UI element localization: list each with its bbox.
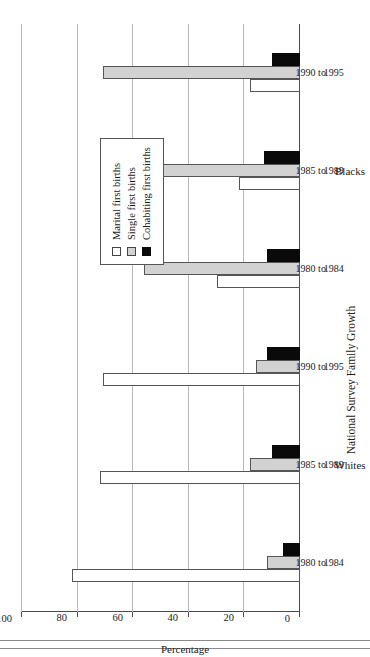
tick-label-0: 0 xyxy=(284,614,289,625)
bar-cohab xyxy=(283,544,300,557)
legend-item-marital: Marital first births xyxy=(111,147,122,256)
legend-item-cohab: Cohabiting first births xyxy=(141,147,152,256)
category-label-line2: 1995 xyxy=(284,67,370,79)
tick-80 xyxy=(77,612,78,617)
bar-marital xyxy=(103,374,300,387)
tick-label-20: 20 xyxy=(223,614,234,625)
tick-100 xyxy=(21,612,22,617)
bar-cohab xyxy=(272,446,300,459)
legend-label-cohabiting: Cohabiting first births xyxy=(141,147,152,240)
tick-60 xyxy=(132,612,133,617)
group-label-blacks: Blacks xyxy=(344,24,356,318)
legend-label-single: Single first births xyxy=(126,167,137,240)
legend-swatch-cohabiting-icon xyxy=(142,247,151,256)
category-label: 1980 to1984 xyxy=(305,220,339,318)
bar-marital xyxy=(239,178,300,191)
bar-marital xyxy=(217,276,300,289)
bar-cohab xyxy=(264,152,300,165)
chart-plot-stage: Percentage 020406080100 1980 to19841985 … xyxy=(0,0,370,657)
chart-legend: Marital first births Single first births… xyxy=(100,138,164,265)
legend-item-single: Single first births xyxy=(126,147,137,256)
bar-marital xyxy=(72,570,300,583)
category-label: 1990 to1995 xyxy=(305,24,339,122)
tick-40 xyxy=(188,612,189,617)
tick-0 xyxy=(299,612,300,617)
group-label-text: Whites xyxy=(203,459,370,471)
legend-swatch-single-icon xyxy=(127,247,136,256)
legend-swatch-marital-icon xyxy=(112,247,121,256)
category-label: 1990 to1995 xyxy=(305,318,339,416)
bar-marital xyxy=(250,80,300,93)
bar-cohab xyxy=(272,54,300,67)
category-label: 1980 to1984 xyxy=(305,514,339,612)
tick-label-40: 40 xyxy=(168,614,179,625)
chart-title: National Survey Family Growth xyxy=(345,306,357,455)
axis-title-percentage: Percentage xyxy=(161,643,209,655)
bar-marital xyxy=(100,472,300,485)
bar-group xyxy=(22,514,300,612)
category-label-line2: 1984 xyxy=(284,263,370,275)
bar-group xyxy=(22,318,300,416)
tick-label-60: 60 xyxy=(112,614,123,625)
category-label-line2: 1995 xyxy=(284,361,370,373)
bar-cohab xyxy=(267,348,300,361)
plot-area: 020406080100 1980 to19841985 to19891990 … xyxy=(22,24,300,612)
chart-figure: Percentage 020406080100 1980 to19841985 … xyxy=(0,0,370,657)
group-label-text: Blacks xyxy=(203,165,370,177)
tick-label-100: 100 xyxy=(0,614,12,625)
bar-group xyxy=(22,24,300,122)
tick-label-80: 80 xyxy=(57,614,68,625)
tick-20 xyxy=(243,612,244,617)
bar-cohab xyxy=(267,250,300,263)
category-label-line2: 1984 xyxy=(284,557,370,569)
legend-label-marital: Marital first births xyxy=(111,163,122,240)
